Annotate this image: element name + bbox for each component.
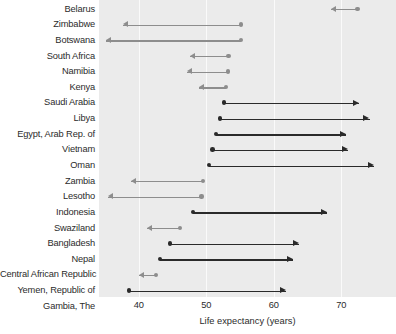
arrow-start-dot (224, 85, 228, 89)
arrow-row (99, 176, 396, 187)
category-label: Gambia, The (0, 301, 95, 311)
arrow-shaft (108, 197, 201, 198)
arrow-row (99, 207, 396, 218)
category-label: Botswana (0, 35, 95, 45)
arrow-head (190, 53, 195, 59)
arrow-shaft (160, 259, 293, 261)
category-label: South Africa (0, 51, 95, 61)
arrow-head (331, 6, 336, 12)
arrow-shaft (170, 244, 299, 246)
category-label: Nepal (0, 254, 95, 264)
arrow-shaft (193, 212, 327, 214)
arrow-start-dot (226, 54, 230, 58)
arrow-shaft (129, 291, 286, 293)
arrow-row (99, 35, 396, 46)
arrow-shaft (123, 25, 240, 26)
x-tick-label: 50 (201, 300, 211, 310)
category-label: Zambia (0, 176, 95, 186)
arrow-shaft (224, 103, 359, 105)
category-label: Lesotho (0, 191, 95, 201)
arrow-head (106, 37, 111, 43)
arrow-row (99, 51, 396, 62)
arrow-row (99, 145, 396, 156)
arrow-row (99, 239, 396, 250)
category-label: Vietnam (0, 144, 95, 154)
arrow-head (340, 131, 346, 137)
category-label: Egypt, Arab Rep. of (0, 129, 95, 139)
arrow-head (293, 240, 299, 246)
category-label: Central African Republic (0, 269, 95, 279)
category-label: Namibia (0, 66, 95, 76)
arrow-start-dot (226, 69, 230, 73)
arrow-shaft (187, 72, 228, 73)
arrow-start-dot (154, 273, 158, 277)
arrow-row (99, 223, 396, 234)
arrow-row (99, 4, 396, 15)
arrow-start-dot (239, 22, 243, 26)
arrow-start-dot (168, 241, 173, 246)
arrow-head (131, 178, 136, 184)
arrow-start-dot (210, 147, 215, 152)
x-axis: 40506070 Life expectancy (years) (99, 297, 396, 334)
arrow-head (108, 193, 113, 199)
category-label: Libya (0, 113, 95, 123)
arrow-row (99, 161, 396, 172)
arrow-head (280, 287, 286, 293)
x-tick-label: 70 (336, 300, 346, 310)
arrow-row (99, 20, 396, 31)
category-label: Oman (0, 160, 95, 170)
arrow-head (342, 146, 348, 152)
category-label: Zimbabwe (0, 19, 95, 29)
arrow-head (147, 225, 152, 231)
category-label: Swaziland (0, 223, 95, 233)
x-tick-label: 60 (269, 300, 279, 310)
arrow-head (368, 162, 374, 168)
arrow-start-dot (201, 179, 205, 183)
arrow-head (139, 272, 144, 278)
arrow-row (99, 270, 396, 281)
category-label: Saudi Arabia (0, 97, 95, 107)
arrow-start-dot (239, 38, 243, 42)
arrow-shaft (220, 119, 370, 121)
x-axis-title: Life expectancy (years) (99, 316, 396, 326)
arrow-head (353, 100, 359, 106)
arrow-head (363, 115, 369, 121)
arrow-row (99, 98, 396, 109)
category-label: Kenya (0, 82, 95, 92)
life-expectancy-arrow-chart: BelarusZimbabweBotswanaSouth AfricaNamib… (0, 0, 396, 334)
category-axis-labels: BelarusZimbabweBotswanaSouth AfricaNamib… (0, 0, 95, 297)
arrow-shaft (106, 40, 240, 41)
category-label: Indonesia (0, 207, 95, 217)
arrow-head (321, 209, 327, 215)
arrow-start-dot (127, 288, 132, 293)
x-tick-label: 40 (134, 300, 144, 310)
arrow-start-dot (178, 226, 182, 230)
category-label: Belarus (0, 4, 95, 14)
arrow-row (99, 82, 396, 93)
arrow-head (287, 256, 293, 262)
arrow-start-dot (218, 116, 223, 121)
arrow-row (99, 129, 396, 140)
arrow-start-dot (199, 194, 203, 198)
arrow-shaft (209, 166, 374, 168)
arrow-shaft (131, 181, 203, 182)
arrow-head (187, 68, 192, 74)
arrow-shaft (212, 150, 348, 152)
arrow-row (99, 114, 396, 125)
arrow-row (99, 67, 396, 78)
arrow-head (199, 84, 204, 90)
arrow-shaft (190, 56, 228, 57)
arrow-row (99, 286, 396, 297)
category-label: Bangladesh (0, 238, 95, 248)
arrow-head (123, 21, 128, 27)
category-label: Yemen, Republic of (0, 285, 95, 295)
arrow-shaft (216, 134, 346, 136)
arrow-start-dot (355, 7, 359, 11)
plot-area (99, 0, 396, 297)
arrow-row (99, 192, 396, 203)
arrow-row (99, 254, 396, 265)
